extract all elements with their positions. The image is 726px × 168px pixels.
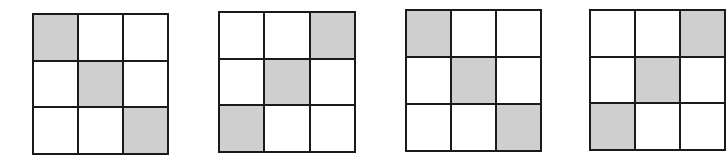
empty-cell-r0-c0 [219, 12, 264, 59]
grid-3 [405, 9, 542, 152]
empty-cell-r1-c2 [123, 61, 168, 108]
empty-cell-r0-c1 [78, 14, 123, 61]
empty-cell-r2-c1 [78, 107, 123, 154]
shaded-cell-r2-c0 [590, 103, 635, 150]
shaded-cell-r1-c1 [78, 61, 123, 108]
empty-cell-r2-c2 [680, 103, 725, 150]
shaded-cell-r2-c2 [123, 107, 168, 154]
empty-cell-r0-c2 [496, 10, 541, 57]
empty-cell-r2-c1 [264, 105, 309, 152]
shaded-cell-r0-c2 [310, 12, 355, 59]
shaded-cell-r1-c1 [451, 57, 496, 104]
empty-cell-r0-c2 [123, 14, 168, 61]
empty-cell-r0-c1 [264, 12, 309, 59]
empty-cell-r1-c0 [219, 59, 264, 106]
empty-cell-r2-c0 [406, 104, 451, 151]
empty-cell-r2-c2 [310, 105, 355, 152]
empty-cell-r0-c0 [590, 10, 635, 57]
empty-cell-r1-c0 [590, 57, 635, 104]
empty-cell-r2-c0 [33, 107, 78, 154]
empty-cell-r1-c0 [406, 57, 451, 104]
shaded-cell-r2-c0 [219, 105, 264, 152]
empty-cell-r0-c1 [635, 10, 680, 57]
grid-2 [218, 11, 356, 153]
empty-cell-r1-c2 [680, 57, 725, 104]
empty-cell-r2-c1 [635, 103, 680, 150]
shaded-cell-r0-c0 [33, 14, 78, 61]
grid-4 [589, 9, 726, 151]
shaded-cell-r1-c1 [264, 59, 309, 106]
shaded-cell-r1-c1 [635, 57, 680, 104]
empty-cell-r1-c0 [33, 61, 78, 108]
empty-cell-r2-c1 [451, 104, 496, 151]
empty-cell-r0-c1 [451, 10, 496, 57]
grid-1 [32, 13, 169, 155]
empty-cell-r1-c2 [496, 57, 541, 104]
shaded-cell-r0-c0 [406, 10, 451, 57]
empty-cell-r1-c2 [310, 59, 355, 106]
shaded-cell-r0-c2 [680, 10, 725, 57]
shaded-cell-r2-c2 [496, 104, 541, 151]
